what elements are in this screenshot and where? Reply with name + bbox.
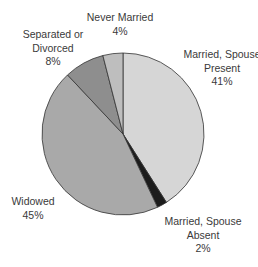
label-widowed-pct: 45% [11, 209, 54, 223]
label-separated-line2: Divorced [23, 42, 84, 56]
label-separated-line1: Separated or [23, 28, 84, 42]
label-separated-divorced: Separated or Divorced 8% [23, 28, 84, 69]
label-married-spouse-absent: Married, Spouse Absent 2% [164, 215, 241, 256]
label-married-present-pct: 41% [183, 75, 258, 89]
label-never-married: Never Married 4% [87, 11, 154, 38]
label-married-absent-line2: Absent [164, 229, 241, 243]
label-married-present-line1: Married, Spouse [183, 48, 258, 62]
label-separated-pct: 8% [23, 55, 84, 69]
label-never-married-pct: 4% [87, 25, 154, 39]
label-widowed: Widowed 45% [11, 195, 54, 222]
label-married-absent-pct: 2% [164, 242, 241, 256]
label-never-married-name: Never Married [87, 11, 154, 25]
label-married-present-line2: Present [183, 62, 258, 76]
label-widowed-name: Widowed [11, 195, 54, 209]
label-married-spouse-present: Married, Spouse Present 41% [183, 48, 258, 89]
label-married-absent-line1: Married, Spouse [164, 215, 241, 229]
